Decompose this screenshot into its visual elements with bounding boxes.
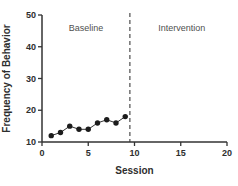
data-series bbox=[49, 114, 128, 138]
x-tick-label: 0 bbox=[39, 148, 44, 158]
y-tick-label: 40 bbox=[26, 42, 36, 52]
x-tick-label: 20 bbox=[222, 148, 232, 158]
y-axis-label: Frequency of Behavior bbox=[1, 24, 12, 132]
data-point bbox=[123, 114, 128, 119]
intervention-phase-label: Intervention bbox=[158, 23, 205, 33]
data-point bbox=[86, 127, 91, 132]
axes bbox=[42, 15, 227, 142]
data-point bbox=[58, 130, 63, 135]
x-axis-label: Session bbox=[115, 165, 153, 176]
x-tick-label: 10 bbox=[129, 148, 139, 158]
y-tick-label: 20 bbox=[26, 105, 36, 115]
y-tick-label: 10 bbox=[26, 137, 36, 147]
baseline-phase-label: Baseline bbox=[69, 23, 104, 33]
data-point bbox=[113, 120, 118, 125]
x-tick-label: 15 bbox=[176, 148, 186, 158]
data-point bbox=[49, 133, 54, 138]
data-point bbox=[95, 120, 100, 125]
y-tick-label: 30 bbox=[26, 74, 36, 84]
y-tick-label: 50 bbox=[26, 10, 36, 20]
x-tick-label: 5 bbox=[86, 148, 91, 158]
data-point bbox=[76, 127, 81, 132]
data-point bbox=[104, 117, 109, 122]
chart-canvas: 102030405005101520 Baseline Intervention… bbox=[0, 0, 238, 186]
behavior-frequency-chart: 102030405005101520 Baseline Intervention… bbox=[0, 0, 238, 186]
data-point bbox=[67, 123, 72, 128]
